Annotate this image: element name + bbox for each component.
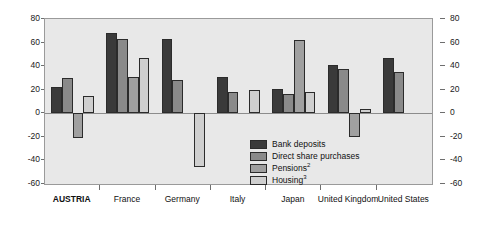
y-axis-right: 806040200-20-40-60 — [441, 18, 469, 185]
y-tick-label-left: 0 — [35, 108, 40, 117]
y-tick-mark-right — [440, 18, 445, 19]
x-axis-category-label: Japan — [281, 195, 304, 204]
y-tick-label-right: 60 — [450, 38, 459, 47]
bar — [283, 94, 294, 113]
legend-swatch-icon — [250, 164, 267, 173]
x-axis: AUSTRIAFranceGermanyItalyJapanUnited Kin… — [44, 185, 433, 219]
y-tick-mark-right — [440, 159, 445, 160]
y-tick-label-left: -40 — [28, 155, 40, 164]
legend-item-label: Direct share purchases — [272, 152, 359, 161]
bar — [272, 89, 283, 114]
bar — [305, 92, 316, 113]
x-axis-category-label: United Kingdom — [318, 195, 378, 204]
legend-item: Pensions2 — [250, 162, 380, 174]
y-tick-label-right: 20 — [450, 85, 459, 94]
bar — [162, 39, 173, 113]
x-tick-mark — [155, 185, 156, 190]
bar — [194, 113, 205, 167]
bar — [394, 72, 405, 113]
y-tick-mark-right — [440, 136, 445, 137]
y-tick-label-left: 60 — [31, 38, 40, 47]
legend-item: Housing3 — [250, 174, 380, 186]
chart-figure: 806040200-20-40-60 806040200-20-40-60 AU… — [0, 0, 481, 227]
x-axis-category-label: Italy — [230, 195, 246, 204]
y-tick-label-left: 20 — [31, 85, 40, 94]
bar — [139, 58, 150, 113]
bar — [228, 92, 239, 113]
x-tick-mark — [210, 185, 211, 190]
chart-legend: Bank depositsDirect share purchasesPensi… — [250, 138, 380, 186]
legend-swatch-icon — [250, 152, 267, 161]
bar — [62, 78, 73, 113]
bar — [328, 65, 339, 113]
y-tick-label-left: 40 — [31, 61, 40, 70]
legend-item: Direct share purchases — [250, 150, 380, 162]
bar — [360, 109, 371, 113]
zero-line — [45, 113, 432, 114]
y-tick-label-right: -20 — [450, 132, 462, 141]
y-tick-label-left: -20 — [28, 132, 40, 141]
bar — [106, 33, 117, 113]
bar — [172, 80, 183, 113]
y-axis-left: 806040200-20-40-60 — [16, 18, 40, 185]
y-tick-mark-right — [440, 65, 445, 66]
y-tick-label-right: -60 — [450, 179, 462, 188]
y-tick-mark-right — [440, 89, 445, 90]
legend-swatch-icon — [250, 140, 267, 149]
bar — [217, 77, 228, 114]
bar — [51, 87, 62, 113]
x-tick-mark — [99, 185, 100, 190]
bar — [117, 39, 128, 113]
bar — [349, 113, 360, 137]
y-tick-label-right: 0 — [450, 108, 455, 117]
legend-item-label: Pensions2 — [272, 164, 310, 173]
bar — [249, 90, 260, 114]
bar — [294, 40, 305, 113]
legend-item: Bank deposits — [250, 138, 380, 150]
bar — [338, 69, 349, 114]
y-tick-label-left: -60 — [28, 179, 40, 188]
bar — [383, 58, 394, 113]
y-tick-mark-right — [440, 112, 445, 113]
y-tick-label-right: -40 — [450, 155, 462, 164]
y-tick-label-right: 40 — [450, 61, 459, 70]
bar — [83, 96, 94, 114]
y-tick-label-right: 80 — [450, 14, 459, 23]
y-tick-mark-right — [440, 42, 445, 43]
y-tick-label-left: 80 — [31, 14, 40, 23]
legend-swatch-icon — [250, 176, 267, 185]
x-axis-category-label: United States — [378, 195, 429, 204]
bar — [73, 113, 84, 138]
legend-item-label: Housing3 — [272, 176, 307, 185]
legend-item-label: Bank deposits — [272, 140, 325, 149]
y-tick-mark-right — [440, 183, 445, 184]
bar — [128, 77, 139, 114]
x-axis-category-label: AUSTRIA — [53, 195, 91, 204]
x-axis-category-label: Germany — [165, 195, 200, 204]
x-axis-category-label: France — [114, 195, 140, 204]
